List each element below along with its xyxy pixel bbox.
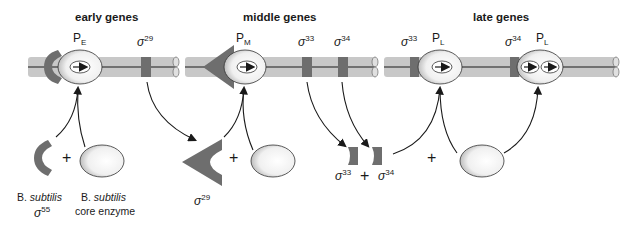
sigma33-gene-label: σ33 [298, 36, 314, 48]
header-late-genes: late genes [473, 12, 529, 24]
sigma33-free-icon [348, 147, 358, 165]
core-enzyme-3 [460, 145, 504, 177]
promoter-letter: P [73, 31, 81, 45]
sigma-number: 29 [144, 34, 153, 43]
species-name: subtilis [94, 191, 126, 203]
late-sigma33-label: σ33 [401, 36, 417, 48]
sigma34-free-icon [372, 147, 382, 165]
header-middle-genes: middle genes [243, 12, 317, 24]
core-enzyme-2 [251, 145, 295, 177]
promoter-subscript: M [244, 38, 251, 47]
rna-polymerase-late-1 [418, 50, 462, 84]
sigma34-gene [338, 57, 348, 77]
sigma29-gene-label: σ29 [137, 36, 153, 48]
promoter-letter: P [432, 31, 440, 45]
rna-polymerase-late-2 [517, 50, 563, 84]
sigma-number: 33 [342, 168, 351, 177]
sigma55-free-icon [34, 140, 52, 176]
promoter-subscript: L [544, 38, 548, 47]
genus-abbrev: B. [81, 191, 91, 203]
rna-polymerase-early [58, 50, 102, 84]
core-enzyme-label: core enzyme [75, 206, 135, 217]
genus-abbrev: B. [17, 191, 27, 203]
sigma34-gene-label: σ34 [334, 36, 350, 48]
promoter-subscript: E [81, 38, 86, 47]
sigma-number: 34 [512, 34, 521, 43]
rna-polymerase-middle [224, 50, 266, 84]
promoter-pl1-label: PL [432, 32, 444, 44]
plus-sign-3: + [360, 168, 369, 184]
promoter-pl2-label: PL [536, 32, 548, 44]
sigma-number: 34 [341, 34, 350, 43]
assembly-arrows [56, 82, 538, 154]
sigma33-gene [302, 57, 312, 77]
species-name: subtilis [30, 191, 62, 203]
sigma-number: 34 [385, 168, 394, 177]
header-early-genes: early genes [75, 12, 138, 24]
core-enzyme-1 [80, 145, 124, 177]
promoter-letter: P [536, 31, 544, 45]
promoter-subscript: L [440, 38, 444, 47]
plus-sign-4: + [427, 150, 436, 166]
sigma-number: 55 [41, 205, 50, 214]
promoter-letter: P [236, 31, 244, 45]
promoter-pe-label: PE [73, 32, 86, 44]
late-sigma34-label: σ34 [505, 36, 521, 48]
core-enzyme-species-label: B. subtilis [81, 192, 126, 203]
host-sigma55-label: B. subtilis [17, 192, 62, 203]
promoter-pm-label: PM [236, 32, 251, 44]
sigma-number: 33 [305, 34, 314, 43]
sigma55-label: σ55 [34, 207, 50, 219]
sigma29-free-label: σ29 [194, 195, 210, 207]
sigma33-free-label: σ33 [335, 170, 351, 182]
sigma34-free-label: σ34 [378, 170, 394, 182]
sigma-number: 33 [408, 34, 417, 43]
sigma-number: 29 [201, 193, 210, 202]
plus-sign-1: + [62, 150, 71, 166]
sigma29-free-icon [182, 139, 222, 186]
sigma29-gene [141, 57, 151, 77]
plus-sign-2: + [229, 150, 238, 166]
